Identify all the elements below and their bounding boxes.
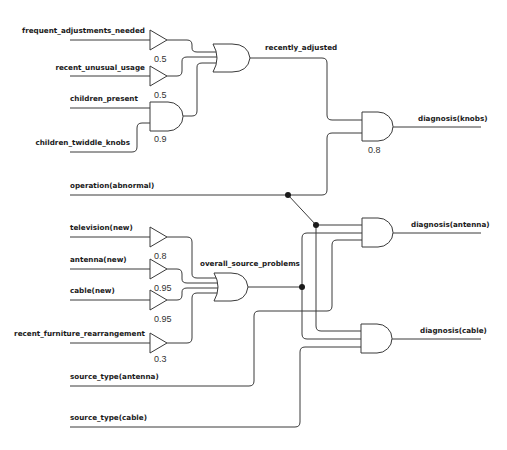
wire-recently-adjusted [250, 58, 362, 120]
label-operation-abnormal: operation(abnormal) [70, 181, 154, 190]
buffer-television-icon [150, 227, 167, 247]
wire-buf-tv-to-or [167, 237, 217, 278]
buffer-frequent-icon [150, 30, 167, 50]
label-recently-adjusted: recently_adjusted [265, 43, 337, 52]
wire-operation-branch [288, 195, 316, 225]
wire-buf-frequent-to-or [167, 40, 216, 52]
prob-buffer-furniture: 0.3 [154, 354, 167, 364]
label-television-new: television(new) [70, 223, 133, 232]
label-diagnosis-antenna: diagnosis(antenna) [411, 220, 490, 229]
and-gate-children-icon [150, 102, 183, 131]
buffer-furniture-icon [150, 333, 167, 353]
junction-dot-operation [285, 192, 291, 198]
output-wires [392, 127, 481, 339]
and-gate-knobs-icon [362, 112, 393, 141]
label-cable-new: cable(new) [70, 286, 115, 295]
logic-diagram: frequent_adjustments_needed recent_unusu… [0, 0, 507, 450]
prob-and-children: 0.9 [154, 134, 167, 144]
buffer-unusual-icon [150, 66, 167, 86]
probability-labels: 0.5 0.5 0.9 0.8 0.8 0.95 0.95 0.3 [154, 54, 381, 364]
or-gate-source-problems-icon [214, 273, 248, 301]
junction-dot-source-problems [299, 284, 305, 290]
wire-buf-unusual-to-or [167, 57, 217, 76]
wire-and-children-to-or [183, 63, 216, 116]
label-source-type-cable: source_type(cable) [70, 413, 147, 422]
buffers [150, 30, 167, 353]
label-children-present: children_present [70, 94, 138, 103]
label-source-type-antenna: source_type(antenna) [70, 372, 159, 381]
or-gate-recently-adjusted-icon [213, 44, 250, 72]
input-labels: frequent_adjustments_needed recent_unusu… [14, 26, 159, 422]
prob-and-knobs: 0.8 [368, 145, 381, 155]
label-children-twiddle-knobs: children_twiddle_knobs [35, 138, 130, 147]
and-gate-cable-icon [361, 324, 392, 353]
junction-dot-operation-branch [313, 222, 319, 228]
wire-operation-to-cable [316, 225, 361, 331]
buffer-cable-icon [150, 290, 167, 310]
prob-buffer-unusual: 0.5 [154, 90, 167, 100]
buffer-antenna-icon [150, 259, 167, 279]
prob-buffer-cable: 0.95 [154, 314, 172, 324]
and-gate-antenna-icon [362, 218, 393, 247]
label-diagnosis-knobs: diagnosis(knobs) [418, 114, 488, 123]
prob-buffer-frequent: 0.5 [154, 54, 167, 64]
label-furniture-rearrangement: recent_furniture_rearrangement [14, 329, 145, 338]
label-recent-unusual-usage: recent_unusual_usage [55, 63, 145, 72]
recently-adjusted-cluster [167, 40, 362, 120]
label-frequent-adjustments: frequent_adjustments_needed [22, 26, 145, 35]
and-gates [150, 102, 393, 353]
prob-buffer-television: 0.8 [154, 251, 167, 261]
label-diagnosis-cable: diagnosis(cable) [420, 326, 487, 335]
prob-buffer-antenna: 0.95 [154, 283, 172, 293]
label-antenna-new: antenna(new) [70, 255, 127, 264]
label-overall-source-problems: overall_source_problems [200, 259, 300, 268]
